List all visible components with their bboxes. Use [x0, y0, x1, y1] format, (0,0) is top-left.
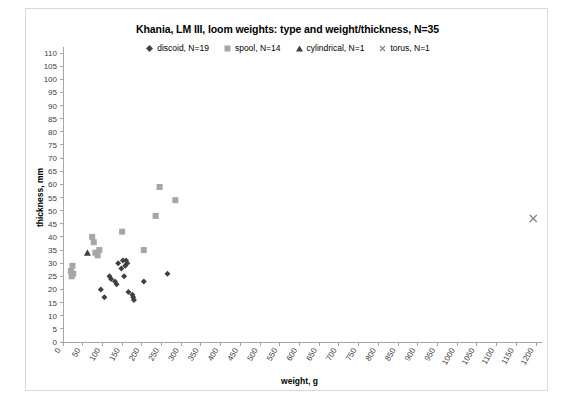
x-tick-label: 1000 — [440, 346, 457, 366]
x-tick-label: 700 — [324, 346, 339, 363]
x-tick-label: 1100 — [480, 346, 497, 366]
data-point-square — [119, 229, 125, 235]
y-tick-label: 80 — [48, 128, 57, 137]
data-point-square — [141, 247, 147, 253]
x-tick-label: 750 — [344, 346, 359, 363]
x-tick-label: 200 — [127, 346, 142, 363]
y-tick-label: 40 — [48, 233, 57, 242]
x-tick-label: 500 — [245, 346, 260, 363]
x-axis: 0501001502002503003504004505005506006507… — [53, 342, 542, 366]
x-tick-label: 450 — [226, 346, 241, 363]
y-axis: 0510152025303540455055606570758085909510… — [44, 47, 63, 347]
x-tick-label: 1150 — [500, 346, 517, 366]
y-tick-label: 0 — [53, 338, 58, 347]
x-tick-label: 850 — [383, 346, 398, 363]
x-tick-label: 1050 — [460, 346, 477, 366]
y-tick-label: 15 — [48, 299, 57, 308]
x-tick-label: 100 — [88, 346, 103, 363]
y-tick-label: 30 — [48, 259, 57, 268]
y-tick-label: 70 — [48, 154, 57, 163]
y-tick-label: 85 — [48, 115, 57, 124]
y-axis-title: thickness, mm — [35, 168, 45, 227]
x-tick-label: 0 — [53, 346, 63, 355]
y-tick-label: 10 — [48, 312, 57, 321]
y-tick-label: 60 — [48, 180, 57, 189]
data-points — [68, 184, 537, 303]
data-point-square — [95, 252, 101, 258]
x-tick-label: 50 — [70, 346, 83, 359]
x-tick-label: 650 — [304, 346, 319, 363]
data-point-square — [69, 263, 75, 269]
y-tick-label: 100 — [44, 75, 58, 84]
data-point-square — [70, 271, 76, 277]
data-point-diamond — [101, 294, 107, 300]
data-point-cross — [530, 215, 537, 222]
x-tick-label: 1200 — [519, 346, 536, 366]
y-tick-label: 5 — [53, 325, 58, 334]
data-point-square — [172, 197, 178, 203]
x-tick-label: 350 — [186, 346, 201, 363]
x-tick-label: 950 — [423, 346, 438, 363]
y-tick-label: 45 — [48, 220, 57, 229]
x-tick-label: 150 — [107, 346, 122, 363]
chart-frame: Khania, LM III, loom weights: type and w… — [25, 8, 548, 391]
data-point-diamond — [121, 273, 127, 279]
y-tick-label: 25 — [48, 272, 57, 281]
y-tick-label: 65 — [48, 167, 57, 176]
data-point-triangle — [84, 249, 91, 256]
data-point-diamond — [164, 271, 170, 277]
data-point-square — [157, 184, 163, 190]
y-tick-label: 55 — [48, 194, 57, 203]
x-tick-label: 800 — [364, 346, 379, 363]
y-tick-label: 105 — [44, 62, 58, 71]
scatter-plot: 0510152025303540455055606570758085909510… — [26, 9, 549, 392]
y-tick-label: 95 — [48, 88, 57, 97]
y-tick-label: 35 — [48, 246, 57, 255]
data-point-square — [89, 234, 95, 240]
data-point-diamond — [141, 279, 147, 285]
y-tick-label: 50 — [48, 207, 57, 216]
x-tick-label: 250 — [147, 346, 162, 363]
data-point-square — [153, 213, 159, 219]
y-tick-label: 20 — [48, 285, 57, 294]
x-tick-label: 300 — [167, 346, 182, 363]
x-tick-label: 400 — [206, 346, 221, 363]
x-tick-label: 600 — [285, 346, 300, 363]
y-tick-label: 75 — [48, 141, 57, 150]
y-tick-label: 90 — [48, 102, 57, 111]
data-point-diamond — [115, 260, 121, 266]
x-axis-title: weight, g — [280, 376, 318, 386]
data-point-diamond — [98, 286, 104, 292]
data-point-square — [96, 247, 102, 253]
x-tick-label: 550 — [265, 346, 280, 363]
data-point-square — [91, 239, 97, 245]
y-tick-label: 110 — [44, 49, 57, 58]
x-tick-label: 900 — [403, 346, 418, 363]
